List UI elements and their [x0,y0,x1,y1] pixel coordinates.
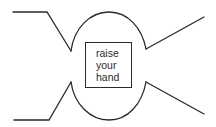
right-upper-line [146,17,204,49]
diagram-canvas: raise your hand [0,0,216,127]
left-upper-line [13,12,71,51]
left-lower-line [14,82,71,120]
label-line-1: raise [96,47,131,59]
label-line-3: hand [96,71,131,83]
label-box: raise your hand [85,42,132,88]
label-line-2: your [96,59,131,71]
right-lower-line [146,82,204,114]
